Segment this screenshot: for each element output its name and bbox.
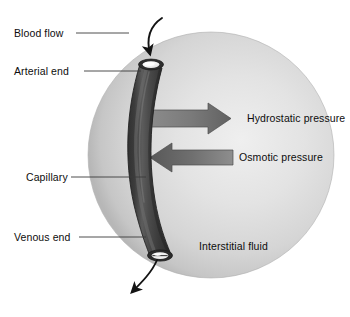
blood-outflow-arrow [132, 260, 157, 292]
figure-canvas: Blood flow Arterial end Capillary Venous… [0, 0, 350, 317]
label-venous-end: Venous end [14, 231, 70, 243]
label-blood-flow: Blood flow [14, 27, 63, 39]
label-interstitial-fluid: Interstitial fluid [199, 240, 268, 252]
label-hydrostatic-pressure: Hydrostatic pressure [247, 112, 345, 124]
label-arterial-end: Arterial end [14, 65, 69, 77]
venous-end-opening [148, 250, 173, 261]
label-capillary: Capillary [26, 171, 68, 183]
arterial-end-opening [139, 59, 164, 70]
label-osmotic-pressure: Osmotic pressure [239, 151, 323, 163]
